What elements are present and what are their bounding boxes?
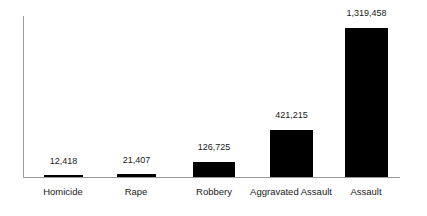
category-label-homicide: Homicide <box>43 186 83 197</box>
bar-value-assault: 1,319,458 <box>346 8 386 18</box>
bar-robbery[interactable] <box>193 162 235 177</box>
bar-chart: 12,418 21,407 126,725 421,215 1,319,458 … <box>0 0 427 216</box>
plot-area: 12,418 21,407 126,725 421,215 1,319,458 <box>0 0 427 178</box>
bar-value-robbery: 126,725 <box>198 142 231 152</box>
category-label-robbery: Robbery <box>196 186 232 197</box>
bar-value-homicide: 12,418 <box>50 156 78 166</box>
bar-value-rape: 21,407 <box>123 155 151 165</box>
bar-assault[interactable] <box>345 28 388 177</box>
bar-value-aggravated-assault: 421,215 <box>275 110 308 120</box>
category-label-assault: Assault <box>350 186 381 197</box>
bar-group-homicide: 12,418 <box>44 0 83 178</box>
bar-group-robbery: 126,725 <box>193 0 235 178</box>
bar-rape[interactable] <box>117 174 156 177</box>
bar-homicide[interactable] <box>44 175 83 177</box>
bar-group-aggravated-assault: 421,215 <box>270 0 313 178</box>
bar-group-assault: 1,319,458 <box>345 0 388 178</box>
category-label-rape: Rape <box>125 186 148 197</box>
bar-aggravated-assault[interactable] <box>270 130 313 177</box>
category-label-aggravated-assault: Aggravated Assault <box>250 186 332 197</box>
bar-group-rape: 21,407 <box>117 0 156 178</box>
